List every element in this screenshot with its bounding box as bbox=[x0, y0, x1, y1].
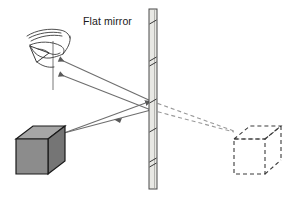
virtual-image-cube bbox=[234, 126, 281, 174]
ray-diagram-figure: Flat mirror bbox=[0, 0, 284, 198]
eye-cheek-contour bbox=[37, 62, 54, 67]
incident-ray-1 bbox=[64, 101, 151, 133]
diagram-canvas bbox=[0, 0, 284, 198]
reflected-ray-1 bbox=[59, 59, 151, 101]
incident-ray-2 bbox=[64, 110, 151, 133]
object-cube bbox=[16, 126, 65, 174]
image-cube-top-face bbox=[234, 126, 281, 139]
image-cube-front-face bbox=[234, 139, 265, 174]
incident-ray-group bbox=[64, 101, 151, 133]
virtual-ray-2 bbox=[151, 110, 234, 132]
flat-mirror-label: Flat mirror bbox=[83, 15, 132, 27]
eye-lash-stroke-2 bbox=[31, 35, 62, 41]
image-cube-bottom-right-edge bbox=[265, 160, 281, 174]
reflected-ray-group bbox=[59, 59, 151, 110]
incident-ray-2-arrowhead bbox=[114, 118, 122, 123]
object-cube-front-face bbox=[16, 139, 48, 174]
image-cube-right-edge bbox=[265, 126, 281, 139]
eye-brow-stroke bbox=[27, 29, 70, 38]
eye-nose-contour bbox=[49, 53, 60, 55]
virtual-ray-1 bbox=[151, 101, 234, 131]
virtual-ray-group bbox=[151, 101, 234, 132]
eye-pupil-triangle bbox=[30, 46, 49, 62]
flat-mirror bbox=[149, 9, 157, 189]
